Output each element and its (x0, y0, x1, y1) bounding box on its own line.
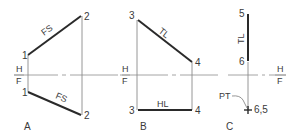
point-note-pt: PT (219, 91, 231, 101)
leader-arrow (232, 96, 247, 108)
fold-label-h: H (16, 64, 23, 74)
point-label-3-top: 3 (129, 10, 135, 21)
fold-label-f: F (16, 76, 22, 86)
panel-caption-b: B (140, 121, 147, 132)
panel-caption-c: C (226, 121, 233, 132)
line-1-2-front-view (28, 92, 81, 115)
point-label-6-5: 6,5 (254, 104, 268, 115)
line-label-fs-top: FS (39, 23, 54, 38)
line-label-fs-bottom: FS (54, 91, 69, 105)
panel-a: H F 1 2 1 2 FS FS A (14, 11, 90, 132)
fold-label-h: H (277, 64, 284, 74)
point-label-2-bottom: 2 (84, 110, 90, 121)
line-1-2-top-view (28, 16, 81, 55)
point-label-4-bottom: 4 (195, 105, 201, 116)
line-label-hl: HL (157, 99, 169, 109)
point-label-1-top: 1 (22, 50, 28, 61)
line-label-tl: TL (157, 26, 171, 40)
point-label-6: 6 (239, 56, 245, 67)
fold-label-f: F (122, 76, 128, 86)
point-label-1-bottom: 1 (22, 87, 28, 98)
panel-b: H F 3 4 3 4 TL HL B (120, 10, 201, 132)
point-label-5: 5 (239, 8, 245, 19)
fold-label-f: F (277, 76, 283, 86)
point-label-2-top: 2 (84, 11, 90, 22)
panel-c: 5 6 TL H F PT 6,5 C (219, 8, 286, 132)
point-view-marker (244, 106, 252, 114)
panel-caption-a: A (24, 121, 31, 132)
orthographic-diagram: H F 1 2 1 2 FS FS A H F 3 4 3 4 TL HL (0, 0, 297, 135)
fold-label-h: H (122, 64, 129, 74)
point-label-3-bottom: 3 (129, 105, 135, 116)
line-label-tl: TL (236, 33, 246, 44)
point-label-4-top: 4 (195, 57, 201, 68)
